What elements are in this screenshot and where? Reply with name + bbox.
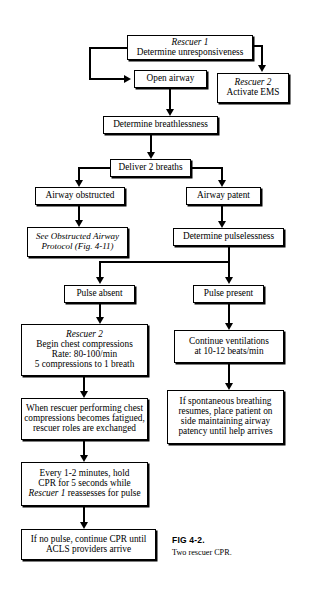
connector-rescuer1-to-ems-down [261, 45, 263, 66]
node-rescuer2-ems-line2: Activate EMS [227, 88, 280, 98]
connector-deliver-right-down [221, 167, 223, 181]
connector-ventilations-to-spontaneous [228, 363, 230, 384]
connector-pulsepresent-to-ventilations [228, 303, 230, 324]
arrowhead-into-airway-obstructed [75, 180, 83, 187]
node-rescuer-roles-exchanged: When rescuer performing chest compressio… [21, 398, 148, 440]
node-hold-cpr-line3-emphasis: Rescuer 1 [28, 488, 65, 498]
node-airway-patent: Airway patent [186, 187, 261, 205]
connector-pulseabsent-to-compressions [99, 303, 101, 318]
figure-caption: FIG 4-2. Two rescuer CPR. [172, 535, 292, 557]
arrowhead-into-rescuer-roles-exchanged [80, 391, 88, 398]
node-pulse-present: Pulse present [193, 285, 264, 303]
node-continue-ventilations: Continue ventilations at 10-12 beats/min [174, 330, 284, 363]
node-rescuer1-line2: Determine unresponsiveness [137, 48, 244, 58]
node-roles-exchanged-line3: rescuer roles are exchanged [33, 424, 136, 434]
arrowhead-into-hold-cpr [80, 455, 88, 462]
node-pulse-absent: Pulse absent [64, 285, 135, 303]
node-airway-obstructed-label: Airway obstructed [46, 191, 115, 201]
arrowhead-into-pulse-present [225, 277, 233, 284]
node-pulse-present-label: Pulse present [204, 289, 253, 299]
figure-number: FIG 4-2. [172, 535, 292, 545]
arrowhead-into-spontaneous-breathing [225, 383, 233, 390]
arrowhead-into-open-airway [124, 75, 131, 83]
node-airway-patent-label: Airway patent [197, 191, 250, 201]
connector-pulselessness-down [228, 246, 230, 262]
node-continue-ventilations-line2: at 10-12 beats/min [194, 347, 263, 357]
node-deliver-2-breaths-label: Deliver 2 breaths [118, 163, 182, 173]
node-rescuer2-activate-ems: Rescuer 2 Activate EMS [217, 73, 289, 103]
node-hold-cpr-line3-rest: reassesses for pulse [65, 488, 140, 498]
connector-rescuer1-loop-bottom [89, 78, 125, 80]
connector-deliver-split-right [190, 167, 223, 169]
arrowhead-into-deliver-2-breaths [147, 152, 155, 159]
node-hold-cpr-reassess: Every 1-2 minutes, hold CPR for 5 second… [21, 462, 148, 506]
node-open-airway-label: Open airway [147, 74, 195, 84]
node-pulse-absent-label: Pulse absent [76, 289, 122, 299]
connector-pulse-present-down [228, 261, 230, 278]
connector-patent-to-pulselessness [221, 205, 223, 222]
node-begin-chest-compressions: Rescuer 2 Begin chest compressions Rate:… [21, 324, 148, 376]
connector-holdcpr-to-acls [83, 506, 85, 523]
connector-exchange-to-holdcpr [83, 440, 85, 456]
connector-deliver-split-left [78, 167, 111, 169]
connector-obstructed-to-protocol [78, 205, 80, 221]
connector-openairway-to-breathlessness [169, 88, 171, 110]
node-airway-obstructed: Airway obstructed [35, 187, 125, 205]
node-determine-breathlessness-label: Determine breathlessness [113, 120, 208, 130]
node-open-airway: Open airway [134, 70, 207, 88]
node-obstructed-protocol-line2: Protocol (Fig. 4-11) [41, 242, 113, 252]
node-determine-pulselessness-label: Determine pulselessness [183, 232, 274, 242]
connector-rescuer1-loop-top [89, 47, 128, 49]
arrowhead-into-determine-pulselessness [218, 221, 226, 228]
arrowhead-into-begin-compressions [96, 317, 104, 324]
node-continue-until-acls: If no pulse, continue CPR until ACLS pro… [21, 529, 156, 560]
figure-caption-text: Two rescuer CPR. [172, 548, 292, 557]
arrowhead-into-airway-patent [218, 180, 226, 187]
flowchart-page: Rescuer 1 Determine unresponsiveness Ope… [0, 0, 311, 593]
node-spontaneous-breathing: If spontaneous breathing resumes, place … [167, 390, 284, 444]
node-determine-breathlessness: Determine breathlessness [103, 116, 218, 134]
node-deliver-2-breaths: Deliver 2 breaths [110, 159, 191, 177]
node-see-obstructed-airway-protocol: See Obstructed Airway Protocol (Fig. 4-1… [27, 227, 128, 257]
arrowhead-into-obstructed-protocol [75, 220, 83, 227]
node-rescuer1: Rescuer 1 Determine unresponsiveness [127, 35, 253, 60]
arrowhead-into-continue-ventilations [225, 323, 233, 330]
connector-rescuer1-loop-left [89, 47, 91, 79]
connector-compressions-to-exchange [83, 376, 85, 392]
arrowhead-into-continue-until-acls [80, 522, 88, 529]
connector-deliver-left-down [78, 167, 80, 181]
connector-pulse-absent-down [99, 261, 101, 278]
node-hold-cpr-line3: Rescuer 1 reassesses for pulse [28, 489, 140, 499]
connector-pulselessness-split [99, 261, 230, 263]
node-acls-line2: ACLS providers arrive [46, 545, 131, 555]
arrowhead-into-pulse-absent [96, 277, 104, 284]
connector-breathlessness-to-deliver [150, 134, 152, 153]
arrowhead-into-rescuer2-ems [258, 65, 266, 72]
arrowhead-into-breathlessness [166, 109, 174, 116]
node-spontaneous-line4: patency until help arrives [178, 427, 272, 437]
node-begin-compressions-line4: 5 compressions to 1 breath [35, 360, 135, 370]
node-determine-pulselessness: Determine pulselessness [173, 228, 284, 246]
